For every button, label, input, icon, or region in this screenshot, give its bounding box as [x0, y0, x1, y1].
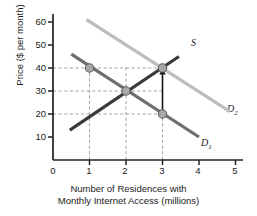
- data-point-old-demand-at-price-40: [85, 64, 93, 72]
- curve-D2: [87, 20, 230, 112]
- data-point-original-equilibrium: [122, 87, 130, 95]
- curves-group: [70, 20, 230, 137]
- supply-demand-chart: Price ($ per month) 60 50 40 30 20 10 0 …: [0, 0, 257, 216]
- axes-group: [48, 14, 243, 165]
- plot-canvas: [0, 0, 257, 216]
- data-point-old-demand-at-price-20: [158, 110, 166, 118]
- data-point-new-equilibrium: [158, 64, 166, 72]
